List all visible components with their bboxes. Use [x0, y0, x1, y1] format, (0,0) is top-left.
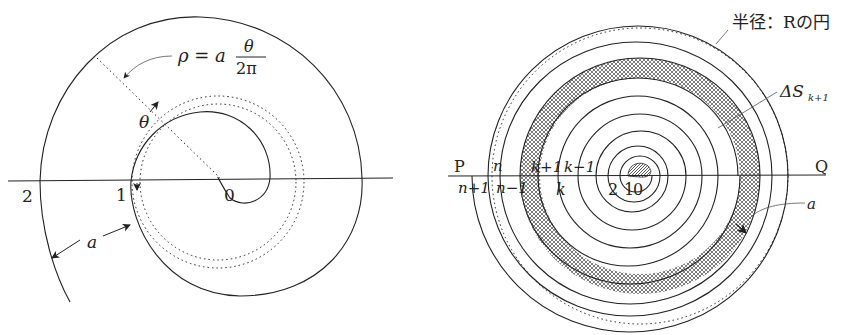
- right-spiral-figure: 半径：Rの円 ΔS k+1 P Q n k+1 k−1 n+1 n−1 k 2 …: [448, 12, 830, 332]
- turn1-label: 1: [116, 185, 127, 205]
- left-spiral-figure: ρ = a θ 2π θ 0 1 2 a: [8, 17, 393, 302]
- left-axis-line: [8, 178, 393, 181]
- label-n-plus-1: n+1: [458, 179, 490, 197]
- area-label-sub: k+1: [808, 92, 829, 103]
- label-k-plus-1: k+1: [531, 158, 562, 176]
- area-label-main: ΔS: [779, 81, 804, 101]
- label-0: 0: [633, 180, 643, 199]
- formula-denominator: 2π: [236, 59, 257, 78]
- angle-arrow-icon: [150, 102, 158, 112]
- circle-label-leader: [716, 30, 728, 44]
- label-n: n: [493, 157, 503, 175]
- circle-radius-label: 半径：Rの円: [732, 12, 830, 32]
- formula-leader: [124, 56, 172, 78]
- spacing-arrow-right-icon: [103, 225, 130, 236]
- label-k-minus-1: k−1: [564, 158, 595, 176]
- point-q-label: Q: [815, 157, 828, 176]
- turn2-label: 2: [22, 186, 33, 206]
- right-spacing-label: a: [807, 195, 816, 213]
- label-n-minus-1: n−1: [496, 179, 528, 197]
- dotted-circle-inner: [140, 104, 296, 260]
- radius-line: [97, 58, 220, 178]
- formula-numerator: θ: [244, 37, 254, 56]
- spacing-label: a: [87, 232, 97, 252]
- spacing-arrow-left-icon: [52, 240, 80, 258]
- spiral-turn-1: [131, 112, 270, 203]
- angle-label: θ: [139, 112, 149, 132]
- spiral-diagrams: ρ = a θ 2π θ 0 1 2 a: [0, 0, 852, 335]
- formula-lhs: ρ = a: [177, 45, 226, 66]
- origin-label: 0: [224, 185, 235, 205]
- point-p-label: P: [454, 157, 465, 176]
- label-k: k: [556, 180, 566, 199]
- dotted-circle-outer: [132, 96, 304, 268]
- pq-axis-line: [448, 175, 826, 176]
- spacing-leader: [750, 203, 805, 218]
- label-2: 2: [608, 180, 618, 199]
